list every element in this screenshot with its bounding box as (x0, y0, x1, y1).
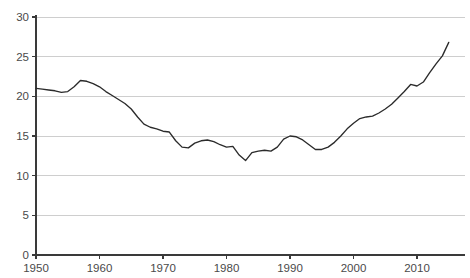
x-tick-label-1990: 1990 (277, 262, 303, 274)
gridlines (36, 17, 465, 215)
y-tick-label-5: 5 (23, 209, 29, 221)
y-tick-label-20: 20 (16, 90, 29, 102)
y-tick-label-30: 30 (16, 11, 29, 23)
y-tick-label-0: 0 (23, 249, 29, 261)
line-chart: 051015202530 195019601970198019902000201… (0, 0, 470, 278)
x-tick-label-1980: 1980 (214, 262, 240, 274)
y-tick-label-15: 15 (16, 130, 29, 142)
y-tick-label-10: 10 (16, 170, 29, 182)
x-tick-label-2010: 2010 (404, 262, 430, 274)
x-tick-label-1950: 1950 (23, 262, 49, 274)
x-tick-label-1960: 1960 (87, 262, 113, 274)
axes (36, 15, 465, 255)
chart-canvas: 051015202530 195019601970198019902000201… (0, 0, 470, 278)
y-tick-label-25: 25 (16, 51, 29, 63)
x-tick-label-1970: 1970 (150, 262, 176, 274)
x-tick-label-2000: 2000 (341, 262, 367, 274)
x-axis-ticks: 1950196019701980199020002010 (23, 255, 430, 274)
y-axis-ticks: 051015202530 (16, 11, 36, 261)
data-line-series-1 (36, 42, 449, 160)
data-series (36, 42, 449, 160)
